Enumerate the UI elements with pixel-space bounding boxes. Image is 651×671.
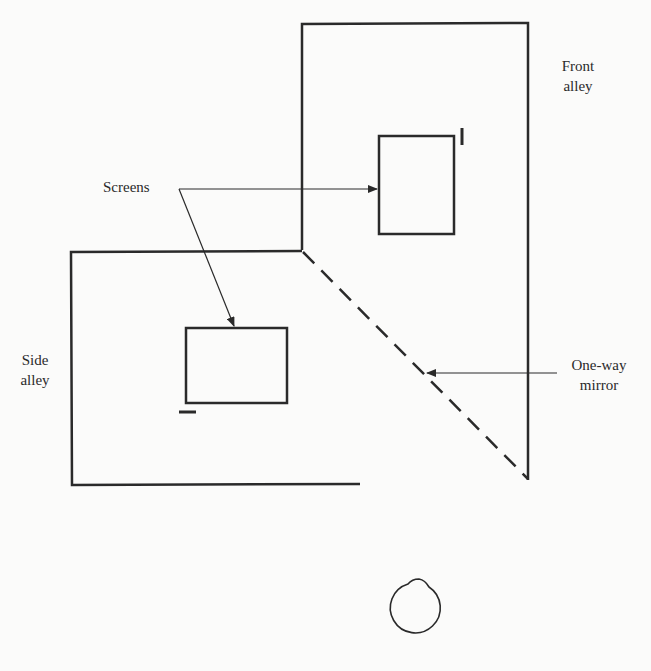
front-alley-label-line1: Front [548, 56, 608, 76]
mirror-label: One-way mirror [558, 355, 640, 395]
front-alley-label-line2: alley [548, 76, 608, 96]
side-screen [186, 328, 287, 403]
front-alley-wall [302, 23, 528, 480]
mirror-label-line1: One-way [558, 355, 640, 375]
side-alley-label-line2: alley [10, 370, 60, 390]
observer-head-icon [390, 579, 440, 633]
screens-label: Screens [103, 177, 150, 197]
mirror-label-line2: mirror [558, 375, 640, 395]
side-alley-label-line1: Side [10, 350, 60, 370]
front-screen [379, 136, 454, 234]
front-alley-label: Front alley [548, 56, 608, 96]
diagram-canvas [0, 0, 651, 671]
one-way-mirror [303, 252, 528, 479]
arrow-to-side-screen [179, 189, 234, 326]
side-alley-wall [71, 251, 360, 485]
side-alley-label: Side alley [10, 350, 60, 390]
